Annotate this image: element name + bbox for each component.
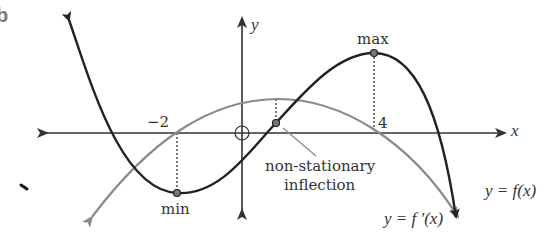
stray-mark — [21, 185, 27, 189]
tick-label-4: 4 — [378, 114, 388, 132]
f-prime-curve-label: y = f ′(x) — [384, 209, 443, 229]
tick-label-neg2: −2 — [147, 113, 169, 131]
x-axis-label: x — [511, 121, 519, 141]
max-point — [371, 50, 378, 57]
inflection-label-line2: inflection — [284, 176, 355, 194]
f-curve — [69, 20, 456, 217]
min-label: min — [161, 200, 190, 218]
inflection-point — [273, 120, 280, 127]
max-label: max — [357, 30, 389, 48]
graph-canvas — [0, 0, 554, 232]
y-axis-label: y — [251, 15, 259, 35]
min-point — [174, 190, 181, 197]
f-curve-label: y = f(x) — [485, 181, 536, 201]
inflection-label-line1: non-stationary — [265, 157, 375, 175]
